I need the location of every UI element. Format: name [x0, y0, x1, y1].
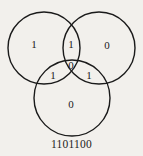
region-label-center-all-three: 0 [63, 60, 79, 71]
region-label-left-right: 1 [63, 39, 79, 50]
venn-circles-svg [0, 0, 143, 156]
region-label-left-only: 1 [26, 39, 42, 50]
region-label-left-bottom: 1 [45, 70, 61, 81]
figure-caption: 1101100 [0, 138, 143, 150]
venn-diagram-figure: 1 1 0 0 1 1 0 1101100 [0, 0, 143, 156]
region-label-right-only: 0 [99, 40, 115, 51]
region-label-right-bottom: 1 [81, 70, 97, 81]
region-label-bottom-only: 0 [63, 99, 79, 110]
